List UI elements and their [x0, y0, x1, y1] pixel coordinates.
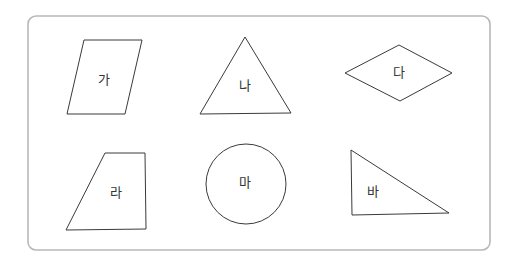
shape-label-ba: 바 — [367, 184, 379, 199]
shapes-figure: 가 나 다 라 마 바 — [0, 0, 515, 264]
shape-label-ga: 가 — [98, 72, 110, 87]
shape-label-ma: 마 — [239, 175, 251, 190]
shape-label-na: 나 — [239, 78, 251, 93]
shape-label-ra: 라 — [110, 185, 122, 200]
figure-frame — [28, 16, 490, 250]
shape-label-da: 다 — [393, 65, 405, 80]
